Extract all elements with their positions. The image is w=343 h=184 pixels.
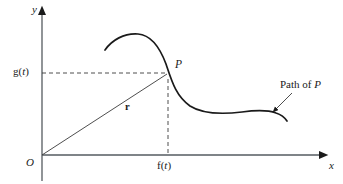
y-component-text: g( xyxy=(13,65,22,77)
path-curve xyxy=(105,34,287,121)
point-p-label: P xyxy=(175,59,182,71)
x-component-close: ) xyxy=(167,159,171,171)
position-vector-r xyxy=(42,74,167,155)
path-caption-prefix: Path of xyxy=(280,78,314,90)
vector-path-figure: y x O g(t) f(t) P r Path of P xyxy=(0,0,343,184)
path-of-p-caption: Path of P xyxy=(280,79,321,90)
x-component-label: f(t) xyxy=(157,160,171,171)
y-axis-label: y xyxy=(32,4,37,15)
y-component-close: ) xyxy=(25,65,29,77)
origin-label: O xyxy=(26,157,34,168)
position-vector-arrowhead xyxy=(108,104,123,114)
path-caption-point: P xyxy=(314,78,321,90)
y-component-label: g(t) xyxy=(13,66,29,77)
figure-canvas xyxy=(0,0,343,184)
x-axis-label: x xyxy=(329,160,334,171)
vector-r-label: r xyxy=(125,102,130,113)
path-caption-leader-line xyxy=(276,93,292,109)
